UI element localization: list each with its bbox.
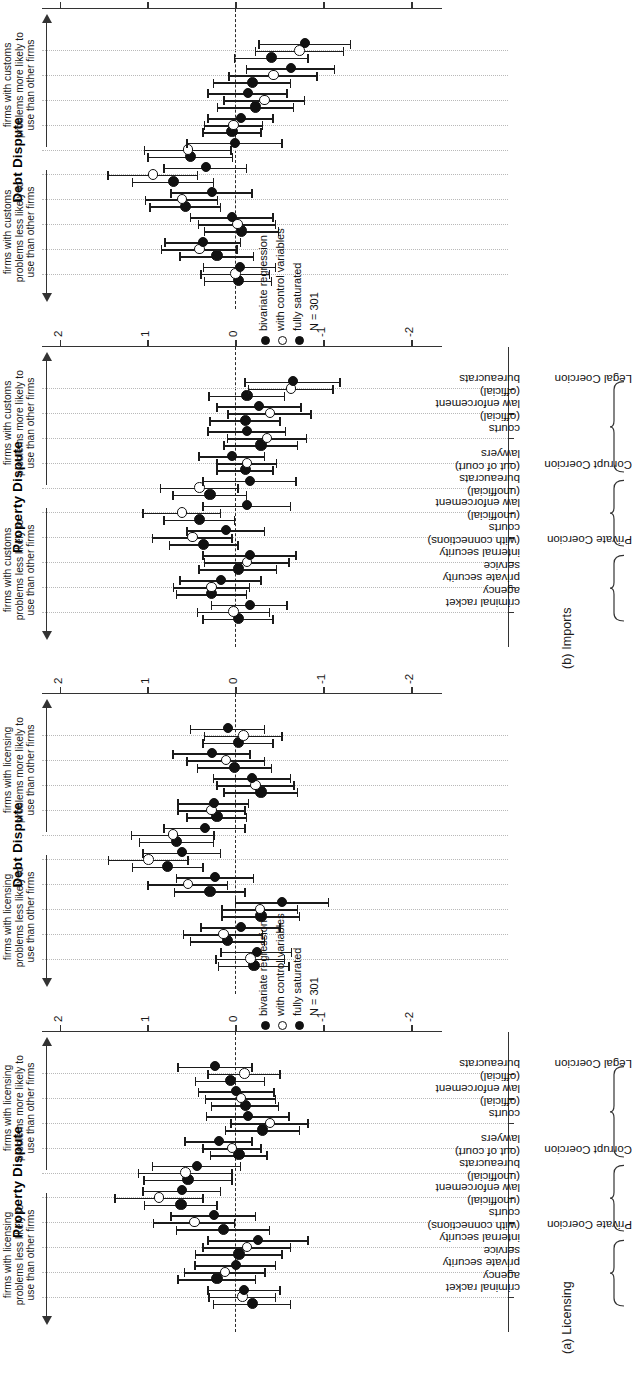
confidence-interval-cap-lower: [271, 277, 273, 286]
axis-tick: [235, 2, 236, 9]
axis-tick: [147, 2, 148, 9]
confidence-interval-cap-upper: [147, 153, 149, 162]
group-brace: [610, 1164, 626, 1234]
confidence-interval-cap-upper: [203, 263, 205, 272]
legend-sample-size: N = 301: [308, 292, 320, 331]
annotation-arrowhead-more: [42, 14, 52, 23]
confidence-interval-cap-upper: [186, 139, 188, 148]
estimate-point-saturated: [300, 38, 310, 48]
estimate-point-saturated: [198, 237, 208, 247]
confidence-interval-cap-lower: [220, 203, 222, 212]
confidence-interval-cap-lower: [272, 114, 274, 123]
confidence-interval-cap-lower: [251, 189, 253, 198]
legend-label: fully saturated: [291, 263, 303, 331]
confidence-interval-cap-lower: [217, 196, 219, 205]
confidence-interval-cap-upper: [207, 90, 209, 99]
confidence-interval-cap-lower: [253, 252, 255, 261]
confidence-interval-cap-lower: [307, 54, 309, 63]
confidence-interval-cap-lower: [350, 40, 352, 49]
category-gridline: [42, 124, 508, 126]
legend-label: with control variables: [274, 228, 286, 331]
estimate-point-bivariate: [211, 250, 222, 261]
estimate-point-saturated: [227, 212, 237, 222]
confidence-interval-cap-upper: [246, 65, 248, 74]
annotation-line: problems more likely to: [14, 7, 26, 163]
confidence-interval-cap-upper: [170, 189, 172, 198]
confidence-interval-cap-upper: [163, 164, 165, 173]
group-brace: [610, 1064, 626, 1158]
confidence-interval-cap-upper: [204, 121, 206, 130]
confidence-interval-cap-lower: [334, 65, 336, 74]
estimate-point-saturated: [235, 262, 245, 272]
confidence-interval-cap-upper: [255, 47, 257, 56]
confidence-interval-cap-lower: [272, 214, 274, 223]
confidence-interval-cap-lower: [236, 245, 238, 254]
estimate-point-saturated: [230, 138, 240, 148]
axis-tick: [60, 2, 61, 9]
confidence-interval-cap-upper: [107, 171, 109, 180]
estimate-point-saturated: [286, 63, 296, 73]
estimate-point-controls: [259, 95, 270, 106]
confidence-interval-cap-lower: [286, 90, 288, 99]
confidence-interval-cap-upper: [207, 114, 209, 123]
confidence-interval-cap-upper: [179, 252, 181, 261]
annotation-line: firms with customs: [2, 7, 14, 163]
group-brace: [610, 479, 626, 549]
annotation-arrowhead-less: [42, 293, 52, 302]
confidence-interval-cap-upper: [145, 196, 147, 205]
confidence-interval-cap-upper: [144, 146, 146, 155]
confidence-interval-cap-lower: [230, 146, 232, 155]
annotation-line: problems less likely to: [14, 154, 26, 310]
confidence-interval-cap-upper: [161, 245, 163, 254]
annotation-arrow-more: [46, 23, 47, 147]
annotation-line: use than other firms: [25, 7, 37, 163]
estimate-point-saturated: [236, 113, 246, 123]
confidence-interval-cap-upper: [204, 228, 206, 237]
confidence-interval-cap-upper: [149, 203, 151, 212]
confidence-interval-cap-lower: [281, 139, 283, 148]
estimate-point-saturated: [243, 88, 253, 98]
axis-tick: [323, 2, 324, 9]
confidence-interval-cap-upper: [164, 238, 166, 247]
confidence-interval-cap-upper: [258, 40, 260, 49]
value-axis-line: [42, 8, 442, 9]
confidence-interval-cap-lower: [293, 104, 295, 113]
estimate-point-bivariate: [266, 52, 277, 63]
group-brace: [610, 379, 626, 473]
annotation-more-likely: firms with customsproblems more likely t…: [2, 7, 37, 163]
confidence-interval-cap-upper: [213, 79, 215, 88]
confidence-interval-cap-lower: [304, 97, 306, 106]
confidence-interval-cap-lower: [232, 153, 234, 162]
annotation-line: use than other firms: [25, 154, 37, 310]
estimate-point-saturated: [201, 162, 211, 172]
category-gridline: [42, 149, 508, 151]
estimate-point-controls: [148, 169, 159, 180]
confidence-interval-cap-upper: [132, 178, 134, 187]
estimate-point-saturated: [207, 187, 217, 197]
group-brace: [610, 1238, 626, 1308]
confidence-interval-cap-upper: [200, 270, 202, 279]
annotation-arrow-less: [46, 170, 47, 294]
confidence-interval-cap-lower: [246, 164, 248, 173]
confidence-interval-cap-lower: [197, 171, 199, 180]
confidence-interval-cap-upper: [228, 72, 230, 81]
category-gridline: [42, 198, 508, 200]
confidence-interval-cap-lower: [343, 47, 345, 56]
confidence-interval-cap-lower: [316, 72, 318, 81]
confidence-interval-cap-upper: [234, 54, 236, 63]
confidence-interval-cap-upper: [190, 214, 192, 223]
estimate-point-controls: [268, 70, 279, 81]
group-brace: [610, 553, 626, 623]
estimate-point-bivariate: [168, 176, 179, 187]
confidence-interval-cap-lower: [213, 178, 215, 187]
confidence-interval-cap-lower: [262, 121, 264, 130]
confidence-interval-cap-upper: [223, 97, 225, 106]
annotation-line: firms with customs: [2, 154, 14, 310]
confidence-interval-cap-lower: [290, 79, 292, 88]
confidence-interval-cap-upper: [198, 221, 200, 230]
confidence-interval-cap-upper: [204, 277, 206, 286]
annotation-less-likely: firms with customsproblems less likely t…: [2, 154, 37, 310]
